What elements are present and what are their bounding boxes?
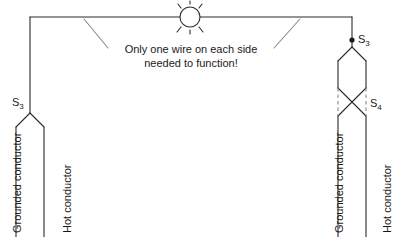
right-s3-arm-left [338, 47, 352, 61]
label-right-switch-s4: S4 [370, 98, 382, 113]
callout-line-2: needed to function! [106, 57, 276, 71]
lamp-ray-up-right [199, 4, 202, 8]
left-switch-arm-left [16, 113, 30, 127]
lamp-symbol [177, 1, 203, 34]
label-left-grounded-conductor: Grounded conductor [12, 133, 23, 233]
label-right-grounded-conductor: Grounded conductor [334, 133, 345, 233]
lamp-ray-down-right [199, 27, 203, 32]
lamp-circle [180, 7, 200, 27]
label-left-hot-conductor: Hot conductor [62, 165, 73, 233]
right-s3-subscript: 3 [365, 39, 369, 48]
lamp-ray-down-left [177, 27, 181, 32]
left-switch-blade [30, 113, 44, 127]
label-right-switch-s3: S3 [358, 34, 370, 49]
label-left-switch-s3: S3 [12, 97, 24, 112]
left-s3-subscript: 3 [19, 102, 23, 111]
junction-dot [349, 37, 354, 42]
callout-line-1: Only one wire on each side [106, 43, 276, 57]
leader-line-right [274, 19, 300, 48]
callout-text: Only one wire on each side needed to fun… [106, 43, 276, 70]
label-right-hot-conductor: Hot conductor [382, 165, 393, 233]
leader-line-left [84, 19, 108, 48]
right-s4-subscript: 4 [377, 103, 381, 112]
lamp-ray-up-left [178, 4, 181, 8]
